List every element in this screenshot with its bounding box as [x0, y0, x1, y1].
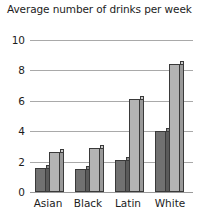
bar-face: [129, 99, 140, 192]
y-tick-label-10: 10: [0, 35, 25, 45]
bar-latin-series-2: [129, 99, 140, 192]
y-tick-label-8: 8: [0, 65, 25, 75]
bar-side: [100, 148, 104, 192]
bar-chart: Average number of drinks per week 10 8 6…: [0, 0, 201, 216]
axis-baseline: [30, 192, 193, 193]
bar-face: [169, 64, 180, 192]
y-tick-label-6: 6: [0, 96, 25, 106]
bar-face: [155, 131, 166, 192]
bar-latin-series-1: [115, 160, 126, 192]
bar-cap: [100, 145, 104, 148]
bar-cap: [180, 61, 184, 64]
x-tick-label-white: White: [149, 197, 191, 209]
y-tick-label-4: 4: [0, 126, 25, 136]
bar-face: [115, 160, 126, 192]
bar-cap: [140, 96, 144, 99]
bar-cap: [60, 149, 64, 152]
bar-side: [140, 99, 144, 192]
bar-asian-series-2: [49, 152, 60, 192]
y-tick-label-0: 0: [0, 187, 25, 197]
bar-face: [89, 148, 100, 192]
plot-area: 10 8 6 4 2 0: [0, 0, 201, 216]
x-tick-label-black: Black: [68, 197, 108, 209]
x-tick-label-asian: Asian: [28, 197, 68, 209]
bar-white-series-2: [169, 64, 180, 192]
bar-black-series-1: [75, 169, 86, 192]
bar-side: [60, 152, 64, 192]
bar-white-series-1: [155, 131, 166, 192]
bar-face: [35, 168, 46, 192]
bar-side: [180, 64, 184, 192]
bar-face: [75, 169, 86, 192]
bar-face: [49, 152, 60, 192]
bar-asian-series-1: [35, 168, 46, 192]
y-tick-label-2: 2: [0, 157, 25, 167]
gridline-10: [30, 40, 193, 41]
x-tick-label-latin: Latin: [108, 197, 148, 209]
bar-black-series-2: [89, 148, 100, 192]
